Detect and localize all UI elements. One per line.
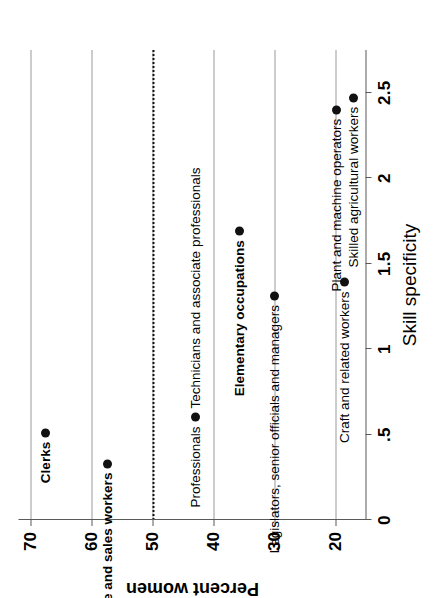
data-point	[103, 459, 112, 468]
data-point-label: Skilled agricultural workers	[345, 107, 360, 268]
x-axis-tick	[365, 263, 371, 264]
y-axis-tick	[91, 520, 92, 526]
data-point-label: Legislators, senior officials and manage…	[266, 305, 281, 553]
x-axis-tick-label: 2.5	[374, 80, 394, 105]
x-axis-tick-label: 1	[374, 344, 394, 354]
data-point-label: Clerks	[38, 442, 53, 483]
data-point	[41, 428, 50, 437]
caption-source: Source: International Labor Organization…	[413, 594, 431, 598]
data-point	[269, 292, 278, 301]
caption-title: Figure 2.3. Skill specificity and occupa…	[395, 594, 413, 598]
data-point-label: Elementary occupations	[231, 240, 246, 396]
rotated-plot-stage: 0.511.522.5203040506070 ClerksService an…	[0, 0, 437, 598]
y-axis-line	[18, 519, 366, 520]
data-point-label: Craft and related workers	[336, 291, 351, 443]
data-point	[234, 227, 243, 236]
y-axis-tick-label: 40	[203, 532, 223, 551]
data-point	[331, 105, 340, 114]
x-axis-tick-label: 0	[374, 515, 394, 525]
data-point	[190, 413, 199, 422]
x-axis-tick-label: 1.5	[374, 251, 394, 276]
x-axis-tick	[365, 177, 371, 178]
y-axis-tick	[335, 520, 336, 526]
gridline	[30, 50, 31, 520]
y-axis-tick-label: 60	[81, 532, 101, 551]
data-point-label: Plant and machine operators	[328, 119, 343, 292]
y-axis-tick-label: 70	[20, 532, 40, 551]
x-axis-tick	[365, 348, 371, 349]
data-point-label: Service and sales workers	[100, 473, 115, 598]
x-axis-tick	[365, 434, 371, 435]
y-axis-title: Percent women	[125, 578, 258, 598]
y-axis-tick	[213, 520, 214, 526]
y-axis-tick	[152, 520, 153, 526]
x-axis-tick-label: .5	[374, 427, 394, 442]
x-axis-tick	[365, 92, 371, 93]
y-axis-tick	[30, 520, 31, 526]
y-axis-tick-label: 20	[325, 532, 345, 551]
figure-container: 0.511.522.5203040506070 ClerksService an…	[0, 0, 437, 598]
x-axis-title: Skill specificity	[398, 50, 420, 520]
x-axis-tick-label: 2	[374, 173, 394, 183]
gridline	[91, 50, 92, 520]
gridline	[213, 50, 214, 520]
y-axis-tick-label: 50	[142, 532, 162, 551]
x-axis-tick	[365, 519, 371, 520]
reference-line-50	[152, 50, 154, 520]
x-axis-line	[365, 50, 366, 520]
data-point-label: Technicians and associate professionals	[187, 168, 202, 409]
data-point-label: Professionals	[187, 426, 202, 507]
data-point	[348, 93, 357, 102]
